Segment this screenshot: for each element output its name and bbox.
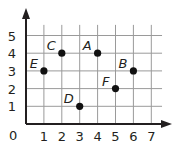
- x-tick-label: 4: [93, 129, 101, 144]
- y-tick-label: 1: [8, 99, 16, 114]
- point-marker-icon: [58, 50, 65, 57]
- y-tick-label: 3: [8, 64, 16, 79]
- point-label: B: [118, 56, 127, 71]
- point-label: E: [30, 56, 39, 71]
- x-tick-label: 2: [58, 129, 66, 144]
- data-points: ABCDEF: [30, 38, 137, 110]
- point-marker-icon: [112, 85, 119, 92]
- point-label: D: [64, 91, 74, 106]
- point-label: F: [102, 74, 110, 89]
- x-tick-label: 3: [76, 129, 84, 144]
- point-c: C: [47, 38, 66, 57]
- point-e: E: [30, 56, 48, 75]
- origin-label: 0: [9, 128, 17, 143]
- point-marker-icon: [76, 103, 83, 110]
- point-marker-icon: [40, 67, 47, 74]
- y-axis-arrow-icon: [22, 8, 30, 19]
- point-f: F: [102, 74, 119, 93]
- x-tick-label: 6: [129, 129, 137, 144]
- y-tick-label: 2: [8, 82, 16, 97]
- point-a: A: [82, 38, 102, 57]
- point-marker-icon: [94, 50, 101, 57]
- y-tick-label: 5: [8, 29, 16, 44]
- point-label: C: [47, 38, 57, 53]
- point-d: D: [64, 91, 84, 110]
- x-axis-arrow-icon: [161, 120, 172, 128]
- y-tick-label: 4: [8, 46, 16, 61]
- coordinate-plane: 0123456712345 ABCDEF: [0, 0, 182, 154]
- x-tick-label: 7: [147, 129, 155, 144]
- point-marker-icon: [130, 67, 137, 74]
- point-label: A: [82, 38, 92, 53]
- x-tick-label: 5: [111, 129, 119, 144]
- x-tick-label: 1: [40, 129, 48, 144]
- point-b: B: [118, 56, 137, 75]
